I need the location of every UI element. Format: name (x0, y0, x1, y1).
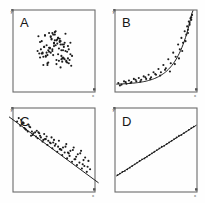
data-point (149, 154, 151, 156)
data-point (81, 167, 83, 169)
data-point (32, 132, 34, 134)
data-point (188, 129, 190, 131)
data-point (64, 146, 66, 148)
data-point (50, 136, 52, 138)
panel-a-points (37, 30, 74, 68)
data-point (60, 148, 62, 150)
data-point (178, 135, 180, 137)
panel-d-x-axis-label: x (194, 193, 197, 198)
panel-b-x-axis-label: x (194, 93, 197, 98)
data-point (77, 153, 79, 155)
data-point (66, 157, 68, 159)
data-point (154, 73, 156, 75)
data-point (124, 170, 126, 172)
data-point (154, 151, 156, 153)
data-point (71, 55, 73, 57)
data-point (151, 153, 153, 155)
data-point (48, 32, 50, 34)
panel-d-plot: y x D (111, 104, 201, 198)
data-point (28, 124, 30, 126)
data-point (181, 50, 183, 52)
data-point (47, 61, 49, 63)
data-point (40, 48, 42, 50)
data-point (40, 136, 42, 138)
data-point (179, 48, 181, 50)
data-point (171, 140, 173, 142)
data-point (78, 162, 80, 164)
panel-c-fit-line (9, 116, 98, 183)
data-point (136, 162, 138, 164)
data-point (67, 151, 69, 153)
data-point (20, 119, 22, 121)
data-point (60, 49, 62, 51)
data-point (67, 45, 69, 47)
panel-a-plot: y x A (9, 6, 99, 98)
data-point (46, 64, 48, 66)
data-point (67, 57, 69, 59)
data-point (45, 138, 47, 140)
data-point (129, 167, 131, 169)
data-point (54, 31, 56, 33)
data-point (117, 82, 119, 84)
data-point (63, 46, 65, 48)
data-point (141, 158, 143, 160)
data-point (46, 52, 48, 54)
data-point (60, 40, 62, 42)
data-point (23, 122, 25, 124)
data-point (185, 131, 187, 133)
data-point (27, 130, 29, 132)
data-point (54, 39, 56, 41)
data-point (60, 55, 62, 57)
data-point (43, 133, 45, 135)
data-point (50, 142, 52, 144)
data-point (53, 139, 55, 141)
data-point (176, 137, 178, 139)
data-point (69, 42, 71, 44)
data-point (119, 173, 121, 175)
data-point (87, 166, 89, 168)
panel-c-x-axis-label: x (92, 193, 95, 198)
panel-a-x-tick (93, 88, 95, 90)
data-point (39, 41, 41, 43)
data-point (19, 125, 21, 127)
panel-b-plot: y x B (111, 6, 201, 98)
data-point (37, 131, 39, 133)
data-point (56, 43, 58, 45)
data-point (175, 56, 177, 58)
data-point (148, 74, 150, 76)
panel-b-x-tick (195, 88, 197, 90)
data-point (181, 134, 183, 136)
data-point (76, 164, 78, 166)
data-point (39, 57, 41, 59)
data-point (131, 165, 133, 167)
data-point (126, 168, 128, 170)
panel-a: y x A (9, 6, 99, 98)
panel-c-plot: y x C (9, 104, 99, 198)
data-point (184, 30, 186, 32)
data-point (173, 138, 175, 140)
data-point (125, 81, 127, 83)
panel-b-letter: B (122, 15, 131, 30)
data-point (82, 163, 84, 165)
data-point (185, 34, 187, 36)
data-point (190, 19, 192, 21)
data-point (47, 49, 49, 51)
data-point (190, 16, 192, 18)
data-point (166, 143, 168, 145)
data-point (45, 55, 47, 57)
data-point (52, 54, 54, 56)
data-point (60, 66, 62, 68)
data-point (47, 140, 49, 142)
data-point (75, 156, 77, 158)
data-point (156, 149, 158, 151)
data-point (52, 34, 54, 36)
data-point (37, 35, 39, 37)
data-point (42, 56, 44, 58)
data-point (55, 63, 57, 65)
data-point (55, 59, 57, 61)
data-point (134, 163, 136, 165)
data-point (74, 158, 76, 160)
data-point (62, 57, 64, 59)
data-point (144, 158, 146, 160)
panel-d-letter: D (122, 114, 131, 129)
